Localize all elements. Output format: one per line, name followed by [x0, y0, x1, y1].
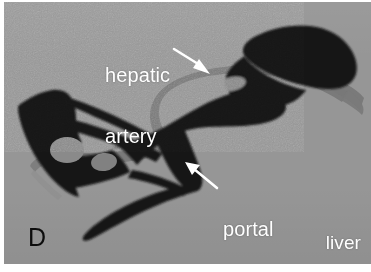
label-hepatic-artery-line1: hepatic: [105, 65, 170, 85]
micrograph-plate: hepatic artery portal vein liver D: [4, 2, 371, 264]
artery-cross-section: [50, 137, 84, 163]
vascular-cast-illustration: [4, 2, 371, 264]
label-portal-vein-line1: portal: [223, 219, 274, 239]
label-hepatic-artery-line2: artery: [105, 126, 170, 146]
hepatic-artery-arrow: [174, 49, 210, 74]
plate-margin-bottom: [0, 264, 371, 272]
panel-letter: D: [28, 225, 46, 251]
label-liver: liver: [326, 233, 361, 252]
label-hepatic-artery: hepatic artery: [105, 24, 170, 187]
figure-root: hepatic artery portal vein liver D: [0, 0, 371, 272]
label-portal-vein: portal vein: [223, 178, 274, 264]
plate-margin-left: [0, 0, 4, 272]
plate-margin-top: [0, 0, 371, 2]
